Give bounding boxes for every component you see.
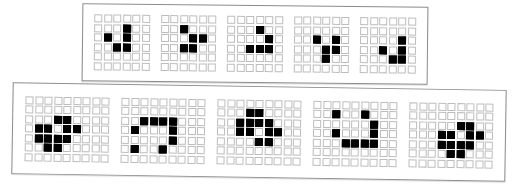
dead-cell bbox=[485, 103, 493, 111]
dead-cell bbox=[237, 35, 245, 43]
dead-cell bbox=[72, 144, 80, 152]
dead-cell bbox=[188, 108, 196, 116]
dead-cell bbox=[370, 27, 378, 35]
dead-cell bbox=[407, 56, 415, 64]
dead-cell bbox=[25, 134, 33, 142]
alive-cell bbox=[168, 136, 176, 144]
dead-cell bbox=[313, 129, 321, 137]
dead-cell bbox=[388, 159, 396, 167]
dead-cell bbox=[274, 147, 282, 155]
dead-cell bbox=[92, 106, 100, 114]
dead-cell bbox=[265, 16, 273, 24]
dead-cell bbox=[189, 63, 197, 71]
dead-cell bbox=[485, 151, 493, 159]
dead-cell bbox=[161, 53, 169, 61]
dead-cell bbox=[389, 37, 397, 45]
dead-cell bbox=[104, 24, 112, 32]
dead-cell bbox=[246, 26, 254, 34]
dead-cell bbox=[438, 102, 446, 110]
dead-cell bbox=[73, 116, 81, 124]
alive-cell bbox=[398, 56, 406, 64]
dead-cell bbox=[360, 130, 368, 138]
dead-cell bbox=[217, 137, 225, 145]
dead-cell bbox=[171, 15, 179, 23]
dead-cell bbox=[419, 102, 427, 110]
dead-cell bbox=[360, 36, 368, 44]
dead-cell bbox=[303, 17, 311, 25]
alive-cell bbox=[447, 140, 455, 148]
dead-cell bbox=[149, 136, 157, 144]
dead-cell bbox=[255, 147, 263, 155]
dead-cell bbox=[293, 64, 301, 72]
dead-cell bbox=[369, 65, 377, 73]
dead-cell bbox=[484, 160, 492, 168]
alive-cell bbox=[332, 36, 340, 44]
alive-cell bbox=[398, 37, 406, 45]
dead-cell bbox=[226, 137, 234, 145]
dead-cell bbox=[150, 98, 158, 106]
dead-cell bbox=[255, 128, 263, 136]
dead-cell bbox=[408, 18, 416, 26]
dead-cell bbox=[475, 150, 483, 158]
alive-cell bbox=[123, 24, 131, 32]
dead-cell bbox=[476, 112, 484, 120]
alive-cell bbox=[236, 128, 244, 136]
dead-cell bbox=[475, 160, 483, 168]
alive-cell bbox=[332, 46, 340, 54]
dead-cell bbox=[159, 126, 167, 134]
dead-cell bbox=[34, 153, 42, 161]
dead-cell bbox=[380, 101, 388, 109]
dead-cell bbox=[227, 63, 235, 71]
dead-cell bbox=[465, 160, 473, 168]
alive-cell bbox=[256, 45, 264, 53]
dead-cell bbox=[121, 116, 129, 124]
dead-cell bbox=[226, 156, 234, 164]
dead-cell bbox=[293, 110, 301, 118]
dead-cell bbox=[82, 135, 90, 143]
dead-cell bbox=[360, 65, 368, 73]
dead-cell bbox=[313, 110, 321, 118]
dead-cell bbox=[227, 99, 235, 107]
dead-cell bbox=[187, 146, 195, 154]
dead-cell bbox=[274, 119, 282, 127]
dead-cell bbox=[208, 54, 216, 62]
alive-cell bbox=[168, 127, 176, 135]
dead-cell bbox=[132, 43, 140, 51]
dead-cell bbox=[265, 100, 273, 108]
dead-cell bbox=[283, 147, 291, 155]
dead-cell bbox=[113, 34, 121, 42]
dead-cell bbox=[35, 96, 43, 104]
alive-cell bbox=[245, 128, 253, 136]
dead-cell bbox=[275, 54, 283, 62]
dead-cell bbox=[196, 156, 204, 164]
dead-cell bbox=[217, 118, 225, 126]
dead-cell bbox=[379, 139, 387, 147]
dead-cell bbox=[25, 96, 33, 104]
dead-cell bbox=[369, 46, 377, 54]
dead-cell bbox=[428, 140, 436, 148]
alive-cell bbox=[313, 36, 321, 44]
dead-cell bbox=[379, 27, 387, 35]
dead-cell bbox=[54, 96, 62, 104]
dead-cell bbox=[82, 144, 90, 152]
dead-cell bbox=[332, 101, 340, 109]
alive-cell bbox=[265, 45, 273, 53]
dead-cell bbox=[63, 96, 71, 104]
glider-grid-1 bbox=[94, 15, 150, 71]
dead-cell bbox=[208, 44, 216, 52]
dead-cell bbox=[275, 35, 283, 43]
dead-cell bbox=[275, 16, 283, 24]
dead-cell bbox=[341, 65, 349, 73]
dead-cell bbox=[53, 153, 61, 161]
dead-cell bbox=[132, 53, 140, 61]
dead-cell bbox=[82, 97, 90, 105]
alive-cell bbox=[456, 150, 464, 158]
dead-cell bbox=[130, 154, 138, 162]
dead-cell bbox=[161, 25, 169, 33]
alive-cell bbox=[189, 35, 197, 43]
alive-cell bbox=[72, 125, 80, 133]
dead-cell bbox=[131, 116, 139, 124]
dead-cell bbox=[159, 155, 167, 163]
alive-cell bbox=[264, 138, 272, 146]
dead-cell bbox=[178, 136, 186, 144]
